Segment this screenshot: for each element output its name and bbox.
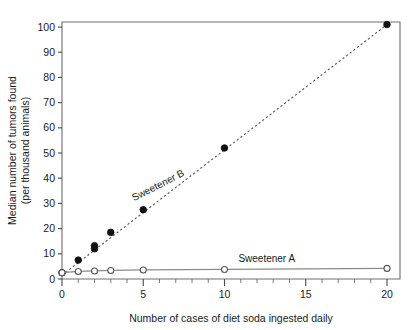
sweetener-a-label: Sweetener A bbox=[238, 253, 295, 264]
x-tick-label: 10 bbox=[219, 288, 231, 300]
scatter-plot: 0102030405060708090100 05101520 Sweetene… bbox=[0, 0, 420, 330]
data-point bbox=[140, 206, 147, 213]
x-tick-label: 5 bbox=[140, 288, 146, 300]
series-sweetener-b bbox=[59, 21, 391, 276]
y-axis-title-line2: (per thousand animals) bbox=[19, 97, 31, 204]
data-point bbox=[107, 229, 114, 236]
data-point bbox=[108, 267, 114, 273]
x-tick-label: 15 bbox=[300, 288, 312, 300]
x-tick-label: 0 bbox=[59, 288, 65, 300]
chart-figure: 0102030405060708090100 05101520 Sweetene… bbox=[0, 0, 420, 330]
y-axis-ticks bbox=[58, 27, 62, 279]
data-point bbox=[384, 265, 390, 271]
y-tick-label: 50 bbox=[43, 147, 55, 159]
frame-border bbox=[62, 22, 400, 279]
y-tick-label: 70 bbox=[43, 96, 55, 108]
data-point bbox=[75, 268, 81, 274]
y-tick-label: 40 bbox=[43, 172, 55, 184]
data-point bbox=[221, 145, 228, 152]
data-point bbox=[140, 267, 146, 273]
data-point bbox=[384, 21, 391, 28]
y-tick-label: 20 bbox=[43, 222, 55, 234]
y-tick-label: 80 bbox=[43, 71, 55, 83]
y-tick-label: 90 bbox=[43, 46, 55, 58]
data-point bbox=[91, 242, 98, 249]
y-tick-label: 0 bbox=[49, 273, 55, 285]
data-point bbox=[75, 257, 82, 264]
data-point bbox=[222, 266, 228, 272]
y-axis-tick-labels: 0102030405060708090100 bbox=[37, 21, 55, 285]
y-tick-label: 10 bbox=[43, 247, 55, 259]
series-sweetener-a bbox=[59, 265, 390, 275]
sweetener-b-points bbox=[59, 21, 391, 276]
x-axis-title: Number of cases of diet soda ingested da… bbox=[129, 312, 333, 324]
y-tick-label: 100 bbox=[37, 21, 55, 33]
y-tick-label: 60 bbox=[43, 121, 55, 133]
y-tick-label: 30 bbox=[43, 197, 55, 209]
y-axis-title-line1: Median number of tumors found bbox=[6, 76, 18, 225]
sweetener-a-points bbox=[59, 265, 390, 275]
data-point bbox=[59, 270, 65, 276]
data-point bbox=[92, 268, 98, 274]
plot-frame bbox=[62, 22, 400, 279]
x-axis-tick-labels: 05101520 bbox=[59, 288, 393, 300]
sweetener-b-label: Sweetener B bbox=[130, 167, 186, 203]
x-tick-label: 20 bbox=[381, 288, 393, 300]
